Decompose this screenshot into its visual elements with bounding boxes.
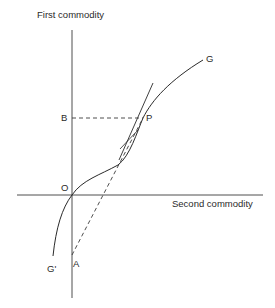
curve-g <box>53 60 203 256</box>
label-b: B <box>61 113 67 123</box>
label-origin: O <box>61 183 68 193</box>
label-a: A <box>73 259 79 269</box>
x-axis-label: Second commodity <box>172 199 253 209</box>
label-g: G <box>206 54 213 64</box>
y-axis-label: First commodity <box>37 10 104 20</box>
dashed-line-ap <box>72 118 143 255</box>
label-g-prime: G' <box>47 264 56 274</box>
label-p: P <box>146 113 152 123</box>
tangent-line-lower <box>120 130 138 149</box>
diagram-canvas <box>0 0 275 308</box>
